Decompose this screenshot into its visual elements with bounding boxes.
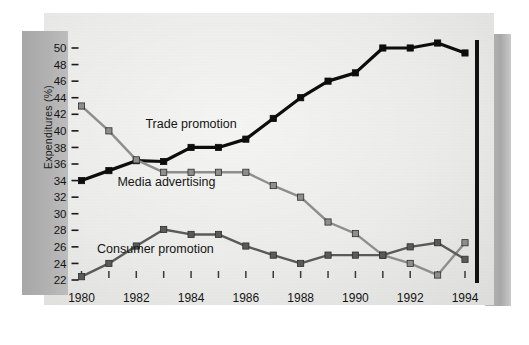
annotation-consumer-promotion: Consumer promotion	[97, 242, 214, 256]
data-point-trade-promotion	[243, 136, 249, 142]
data-point-consumer-promotion	[161, 226, 167, 232]
y-tick-label: 26	[54, 241, 67, 253]
data-point-trade-promotion	[435, 40, 441, 46]
y-tick-label: 48	[54, 59, 67, 71]
data-point-media-advertising	[352, 231, 358, 237]
data-point-media-advertising	[435, 272, 441, 278]
y-tick-label: 32	[54, 191, 67, 203]
data-point-trade-promotion	[270, 115, 276, 121]
y-tick-label: 40	[54, 125, 67, 137]
data-point-media-advertising	[106, 128, 112, 134]
data-point-media-advertising	[270, 182, 276, 188]
data-point-trade-promotion	[78, 177, 84, 183]
x-tick-label: 1980	[68, 291, 95, 305]
data-point-consumer-promotion	[215, 231, 221, 237]
data-point-consumer-promotion	[462, 256, 468, 262]
data-point-consumer-promotion	[407, 244, 413, 250]
data-point-trade-promotion	[407, 45, 413, 51]
y-tick-label: 22	[54, 274, 67, 286]
x-tick-label: 1982	[123, 291, 150, 305]
annotation-trade-promotion: Trade promotion	[145, 117, 236, 131]
y-tick-label: 46	[54, 75, 67, 87]
y-tick-label: 50	[54, 42, 67, 54]
data-point-consumer-promotion	[78, 274, 84, 280]
data-point-consumer-promotion	[325, 252, 331, 258]
x-tick-label: 1988	[287, 291, 314, 305]
data-point-media-advertising	[243, 169, 249, 175]
x-tick-label: 1994	[452, 291, 479, 305]
data-point-media-advertising	[78, 103, 84, 109]
data-point-consumer-promotion	[188, 231, 194, 237]
y-tick-label: 38	[54, 142, 67, 154]
y-tick-label: 36	[54, 158, 67, 170]
x-tick-label: 1992	[397, 291, 424, 305]
data-point-consumer-promotion	[270, 252, 276, 258]
y-tick-label: 24	[54, 258, 67, 270]
data-point-trade-promotion	[352, 70, 358, 76]
data-point-consumer-promotion	[380, 252, 386, 258]
y-tick-label: 34	[54, 175, 67, 187]
data-point-media-advertising	[407, 260, 413, 266]
data-point-media-advertising	[215, 169, 221, 175]
x-tick-label: 1986	[233, 291, 260, 305]
annotation-media-advertising: Media advertising	[117, 175, 215, 189]
x-tick-label: 1984	[178, 291, 205, 305]
data-point-trade-promotion	[215, 144, 221, 150]
data-point-consumer-promotion	[298, 260, 304, 266]
data-point-consumer-promotion	[352, 252, 358, 258]
x-axis-ticks: 19801982198419861988199019921994	[68, 271, 479, 305]
chart-canvas: 222426283032343638404244464850 198019821…	[0, 0, 529, 345]
y-tick-label: 44	[54, 92, 67, 104]
data-point-media-advertising	[298, 194, 304, 200]
data-point-trade-promotion	[298, 95, 304, 101]
data-point-trade-promotion	[325, 78, 331, 84]
data-point-trade-promotion	[161, 158, 167, 164]
y-tick-label: 28	[54, 224, 67, 236]
data-point-trade-promotion	[188, 144, 194, 150]
data-point-trade-promotion	[380, 45, 386, 51]
data-point-media-advertising	[462, 240, 468, 246]
y-tick-label: 30	[54, 208, 67, 220]
data-point-trade-promotion	[106, 168, 112, 174]
y-axis-ticks: 222426283032343638404244464850	[54, 42, 79, 286]
chart-figure: Expenditures (%) 22242628303234363840424…	[0, 0, 529, 345]
data-point-trade-promotion	[462, 50, 468, 56]
data-point-media-advertising	[325, 219, 331, 225]
y-tick-label: 42	[54, 108, 67, 120]
data-point-consumer-promotion	[106, 260, 112, 266]
data-point-consumer-promotion	[435, 240, 441, 246]
data-point-media-advertising	[133, 157, 139, 163]
x-tick-label: 1990	[342, 291, 369, 305]
data-point-consumer-promotion	[243, 243, 249, 249]
